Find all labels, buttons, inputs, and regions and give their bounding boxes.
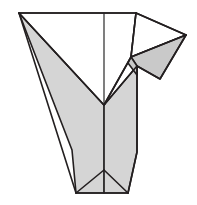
- origami-figure: Origami fold step diagram: [0, 0, 197, 205]
- origami-diagram-root: Origami fold step diagram: [0, 0, 197, 205]
